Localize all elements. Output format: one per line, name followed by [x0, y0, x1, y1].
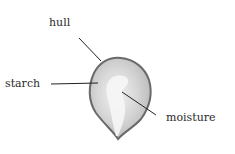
- hull-leader-line: [79, 38, 101, 61]
- diagram-canvas: hull starch moisture: [0, 0, 235, 154]
- moisture-label: moisture: [166, 112, 216, 123]
- hull-label: hull: [49, 17, 70, 28]
- starch-label: starch: [5, 78, 40, 89]
